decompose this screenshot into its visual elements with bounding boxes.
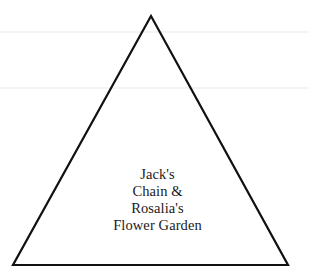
triangle-label-block: Jack's Chain & Rosalia's Flower Garden: [3, 166, 309, 234]
label-line-1: Jack's: [3, 166, 309, 183]
label-line-2: Chain &: [3, 183, 309, 200]
figure-canvas: Jack's Chain & Rosalia's Flower Garden: [0, 0, 309, 272]
label-line-3: Rosalia's: [3, 200, 309, 217]
label-line-4: Flower Garden: [3, 217, 309, 234]
